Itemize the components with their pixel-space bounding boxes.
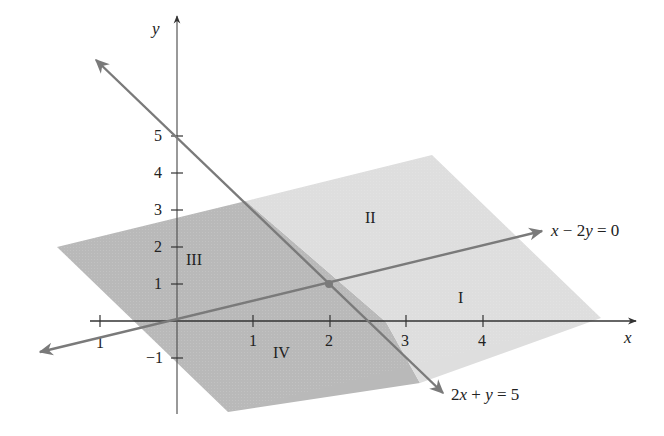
x-tick-label-1: 1 — [249, 332, 257, 349]
equation-label-x-minus-2y: x − 2y = 0 — [550, 221, 619, 240]
y-tick-label-2: 2 — [154, 238, 162, 255]
x-tick-label-3: 3 — [401, 332, 409, 349]
equation-label-2x-plus-y: 2x + y = 5 — [451, 385, 519, 404]
x-tick-label-2: 2 — [325, 332, 333, 349]
region-label-IV: IV — [273, 344, 290, 361]
region-label-III: III — [186, 251, 202, 268]
y-tick-label-5: 5 — [154, 127, 162, 144]
y-tick-label-4: 4 — [154, 164, 162, 181]
coordinate-plane-figure: 1 1 2 3 4 5 4 3 2 1 −1 x y 2x + y = 5 — [0, 0, 664, 436]
x-axis-label: x — [623, 328, 632, 347]
region-label-I: I — [458, 289, 463, 306]
region-label-II: II — [365, 209, 376, 226]
y-tick-label-3: 3 — [154, 201, 162, 218]
intersection-point — [325, 280, 333, 288]
y-tick-label-1: 1 — [154, 275, 162, 292]
y-axis-label: y — [150, 19, 160, 38]
y-tick-label-neg1: −1 — [146, 349, 163, 366]
x-tick-label-4: 4 — [478, 332, 486, 349]
